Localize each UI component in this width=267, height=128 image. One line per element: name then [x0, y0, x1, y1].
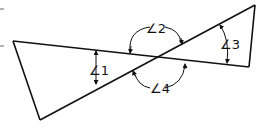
angle4-label: ∠4 — [150, 81, 170, 96]
angle2-label: ∠2 — [146, 21, 166, 36]
vertical-angles-diagram: ∠1 ∠2 ∠3 ∠4 — [0, 0, 267, 128]
right-side — [249, 5, 255, 67]
angle1-label: ∠1 — [89, 63, 109, 78]
left-side — [13, 41, 40, 120]
angle3-label: ∠3 — [220, 37, 240, 52]
line-a — [13, 41, 249, 67]
angle2-arrow-right — [181, 38, 182, 44]
